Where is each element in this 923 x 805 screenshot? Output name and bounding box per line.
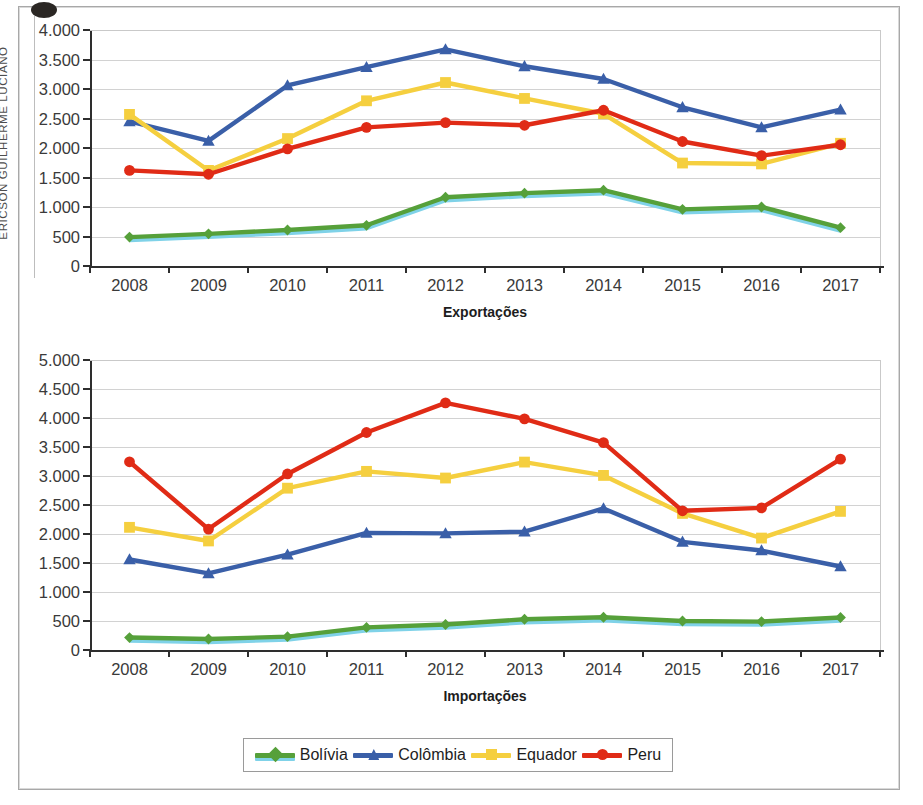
square-marker bbox=[471, 748, 511, 762]
data-point-marker bbox=[361, 466, 372, 477]
data-point-marker bbox=[361, 122, 372, 133]
series-colmbia bbox=[123, 43, 846, 146]
data-point-marker bbox=[282, 483, 293, 494]
series-bolvia bbox=[124, 612, 846, 645]
series-layer bbox=[20, 18, 900, 318]
data-point-marker bbox=[124, 522, 135, 533]
series-layer bbox=[20, 350, 900, 705]
data-point-marker bbox=[835, 139, 846, 150]
legend-label: Colômbia bbox=[398, 746, 466, 764]
data-point-marker bbox=[440, 77, 451, 88]
data-point-marker bbox=[598, 105, 609, 116]
watermark-label: ERICSON GUILHERME LUCIANO bbox=[0, 0, 17, 18]
data-point-marker bbox=[124, 165, 135, 176]
square-marker bbox=[486, 749, 497, 760]
data-point-marker bbox=[756, 503, 767, 514]
data-point-marker bbox=[361, 95, 372, 106]
chart-legend: BolíviaColômbiaEquadorPeru bbox=[243, 738, 673, 772]
data-point-marker bbox=[440, 117, 451, 128]
data-point-marker bbox=[440, 473, 451, 484]
chart-importacoes: 05001.0001.5002.0002.5003.0003.5004.0004… bbox=[20, 350, 900, 705]
legend-item-bolvia[interactable]: Bolívia bbox=[255, 746, 348, 764]
data-point-marker bbox=[598, 437, 609, 448]
legend-label: Peru bbox=[627, 746, 661, 764]
data-point-marker bbox=[677, 158, 688, 169]
data-point-marker bbox=[519, 120, 530, 131]
legend-item-equador[interactable]: Equador bbox=[471, 746, 577, 764]
circle-marker bbox=[597, 749, 608, 760]
watermark-text: ERICSON GUILHERME LUCIANO bbox=[0, 18, 9, 268]
data-point-marker bbox=[519, 413, 530, 424]
data-point-marker bbox=[203, 524, 214, 535]
data-point-marker bbox=[124, 109, 135, 120]
chart-exportacoes: 05001.0001.5002.0002.5003.0003.5004.0002… bbox=[20, 18, 900, 318]
diamond-marker bbox=[255, 748, 295, 762]
data-point-marker bbox=[756, 533, 767, 544]
data-point-marker bbox=[519, 93, 530, 104]
data-point-marker bbox=[677, 505, 688, 516]
data-point-marker bbox=[756, 150, 767, 161]
data-point-marker bbox=[282, 143, 293, 154]
data-point-marker bbox=[598, 470, 609, 481]
data-point-marker bbox=[203, 536, 214, 547]
data-point-marker bbox=[519, 457, 530, 468]
data-point-marker bbox=[440, 398, 451, 409]
data-point-marker bbox=[282, 133, 293, 144]
data-point-marker bbox=[361, 427, 372, 438]
legend-item-colmbia[interactable]: Colômbia bbox=[353, 746, 466, 764]
legend-item-peru[interactable]: Peru bbox=[582, 746, 661, 764]
series-peru bbox=[124, 105, 846, 180]
data-point-marker bbox=[124, 456, 135, 467]
series-peru bbox=[124, 398, 846, 535]
data-point-marker bbox=[282, 469, 293, 480]
legend-label: Equador bbox=[516, 746, 577, 764]
triangle-marker bbox=[353, 748, 393, 762]
circle-marker bbox=[582, 748, 622, 762]
data-point-marker bbox=[677, 136, 688, 147]
series-bolvia bbox=[124, 185, 846, 243]
data-point-marker bbox=[203, 169, 214, 180]
data-point-marker bbox=[835, 454, 846, 465]
data-point-marker bbox=[835, 506, 846, 517]
legend-label: Bolívia bbox=[300, 746, 348, 764]
